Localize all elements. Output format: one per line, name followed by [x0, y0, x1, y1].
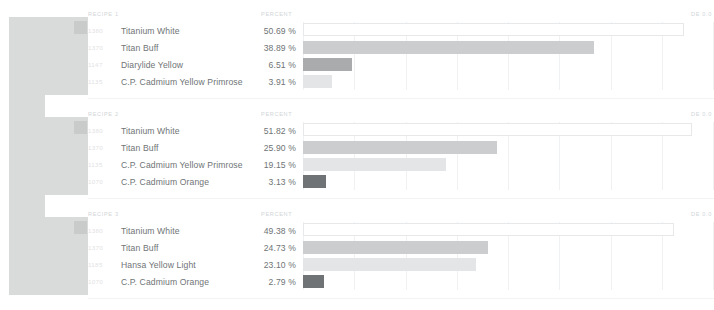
pigment-name: C.P. Cadmium Orange — [121, 277, 209, 287]
percent-column-header: PERCENT — [261, 211, 292, 217]
chart-bars — [303, 122, 714, 190]
bar-track — [303, 156, 714, 173]
pigment-percent: 49.38 % — [234, 226, 296, 236]
pigment-percent: 50.69 % — [234, 26, 296, 36]
recipe-header-row: RECIPE 2PERCENTDE 0.0 — [88, 106, 714, 122]
pigment-name: Diarylide Yellow — [121, 60, 183, 70]
bar-track — [303, 222, 714, 239]
pigment-code: 1370 — [88, 244, 114, 251]
pigment-percent: 25.90 % — [234, 143, 296, 153]
recipe-title: RECIPE 3 — [88, 211, 119, 217]
pigment-code: 1135 — [88, 78, 114, 85]
pigment-code: 1380 — [88, 227, 114, 234]
bar-track — [303, 56, 714, 73]
pigment-percent: 3.91 % — [234, 77, 296, 87]
pigment-bar — [303, 258, 476, 271]
pigment-name: C.P. Cadmium Yellow Primrose — [121, 77, 243, 87]
pigment-code: 1380 — [88, 127, 114, 134]
pigment-bar — [303, 23, 684, 36]
swatch-target-chip — [74, 121, 87, 134]
pigment-name: Titanium White — [121, 126, 180, 136]
bar-track — [303, 173, 714, 190]
color-swatch-block[interactable] — [9, 195, 45, 217]
section-divider — [88, 98, 714, 99]
pigment-name: Titan Buff — [121, 143, 159, 153]
pigment-rows: 1380Titanium White50.69 %1370Titan Buff3… — [88, 22, 714, 90]
pigment-percent: 19.15 % — [234, 160, 296, 170]
recipe-header-row: RECIPE 1PERCENTDE 0.0 — [88, 6, 714, 22]
bar-track — [303, 256, 714, 273]
pigment-bar — [303, 223, 674, 236]
pigment-name: C.P. Cadmium Orange — [121, 177, 209, 187]
pigment-code: 1380 — [88, 27, 114, 34]
color-swatch-block[interactable] — [9, 95, 45, 117]
pigment-percent: 24.73 % — [234, 243, 296, 253]
pigment-code: 1185 — [88, 261, 114, 268]
bar-track — [303, 39, 714, 56]
pigment-bar — [303, 41, 594, 54]
bar-track — [303, 239, 714, 256]
pigment-percent: 51.82 % — [234, 126, 296, 136]
pigment-percent: 38.89 % — [234, 43, 296, 53]
pigment-code: 1135 — [88, 161, 114, 168]
chart-bars — [303, 222, 714, 290]
pigment-bar — [303, 58, 352, 71]
pigment-bar — [303, 241, 488, 254]
color-swatch-block[interactable] — [9, 17, 88, 95]
recipe-section: RECIPE 3PERCENTDE 0.01380Titanium White4… — [88, 206, 714, 290]
recipe-title: RECIPE 2 — [88, 111, 119, 117]
pigment-bar — [303, 175, 326, 188]
bar-track — [303, 273, 714, 290]
pigment-rows: 1380Titanium White49.38 %1370Titan Buff2… — [88, 222, 714, 290]
recipe-bar-chart — [303, 122, 714, 190]
pigment-bar — [303, 123, 692, 136]
delta-e-label: DE 0.0 — [691, 111, 712, 117]
recipe-bar-chart — [303, 22, 714, 90]
delta-e-label: DE 0.0 — [691, 211, 712, 217]
swatch-target-chip — [74, 221, 87, 234]
percent-column-header: PERCENT — [261, 11, 292, 17]
pigment-name: Titan Buff — [121, 43, 159, 53]
pigment-code: 1370 — [88, 44, 114, 51]
pigment-rows: 1380Titanium White51.82 %1370Titan Buff2… — [88, 122, 714, 190]
pigment-bar — [303, 275, 324, 288]
recipe-swatch-column — [0, 0, 88, 310]
recipe-bar-chart — [303, 222, 714, 290]
recipe-title: RECIPE 1 — [88, 11, 119, 17]
pigment-name: Titanium White — [121, 226, 180, 236]
recipe-section: RECIPE 1PERCENTDE 0.01380Titanium White5… — [88, 6, 714, 90]
delta-e-label: DE 0.0 — [691, 11, 712, 17]
color-swatch-block[interactable] — [9, 117, 88, 195]
bar-track — [303, 22, 714, 39]
swatch-target-chip — [74, 21, 87, 34]
pigment-bar — [303, 158, 446, 171]
bar-track — [303, 73, 714, 90]
pigment-percent: 3.13 % — [234, 177, 296, 187]
pigment-code: 1370 — [88, 144, 114, 151]
pigment-name: Titan Buff — [121, 243, 159, 253]
recipe-header-row: RECIPE 3PERCENTDE 0.0 — [88, 206, 714, 222]
bar-track — [303, 122, 714, 139]
pigment-bar — [303, 75, 332, 88]
bar-track — [303, 139, 714, 156]
pigment-percent: 6.51 % — [234, 60, 296, 70]
pigment-name: C.P. Cadmium Yellow Primrose — [121, 160, 243, 170]
pigment-percent: 23.10 % — [234, 260, 296, 270]
recipe-section: RECIPE 2PERCENTDE 0.01380Titanium White5… — [88, 106, 714, 190]
section-divider — [88, 298, 714, 299]
pigment-percent: 2.79 % — [234, 277, 296, 287]
pigment-name: Titanium White — [121, 26, 180, 36]
pigment-name: Hansa Yellow Light — [121, 260, 196, 270]
pigment-bar — [303, 141, 497, 154]
pigment-code: 1147 — [88, 61, 114, 68]
pigment-code: 1070 — [88, 278, 114, 285]
percent-column-header: PERCENT — [261, 111, 292, 117]
section-divider — [88, 198, 714, 199]
color-swatch-block[interactable] — [9, 217, 88, 295]
pigment-code: 1070 — [88, 178, 114, 185]
chart-bars — [303, 22, 714, 90]
